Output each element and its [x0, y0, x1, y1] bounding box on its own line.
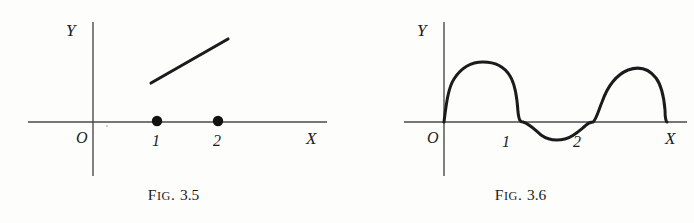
caption-number: 3.5: [180, 186, 199, 203]
origin-label: O: [427, 129, 439, 146]
y-axis-label: Y: [417, 21, 428, 40]
figure-3-6: Y X O 1 2 FIG. 3.6: [347, 0, 694, 223]
x-tick-label-2: 2: [213, 132, 221, 149]
caption-ig: IG: [157, 189, 171, 203]
origin-label: O: [76, 129, 88, 146]
figure-caption-3-6: FIG. 3.6: [347, 186, 694, 204]
x-axis-label: X: [664, 129, 676, 148]
plot-area-fig-3-5: Y X O 1 2: [0, 0, 347, 185]
x-tick-label-1: 1: [152, 132, 160, 149]
plot-area-fig-3-6: Y X O 1 2: [347, 0, 694, 185]
scan-speck: [106, 125, 108, 127]
caption-number: 3.6: [527, 186, 546, 203]
caption-dot: .: [518, 186, 527, 203]
line-segment: [151, 39, 228, 83]
y-axis-label: Y: [66, 21, 77, 40]
caption-dot: .: [171, 186, 180, 203]
figure-page: Y X O 1 2 FIG. 3.5 Y X O: [0, 0, 694, 223]
point-marker-2: [213, 116, 223, 126]
function-curve: [444, 62, 667, 140]
x-axis-label: X: [305, 129, 317, 148]
x-tick-label-1: 1: [502, 133, 510, 150]
caption-ig: IG: [504, 189, 518, 203]
x-tick-label-2: 2: [573, 133, 581, 150]
figure-caption-3-5: FIG. 3.5: [0, 186, 347, 204]
caption-f: F: [148, 186, 157, 203]
figure-3-5: Y X O 1 2 FIG. 3.5: [0, 0, 347, 223]
point-marker-1: [152, 116, 162, 126]
caption-f: F: [495, 186, 504, 203]
